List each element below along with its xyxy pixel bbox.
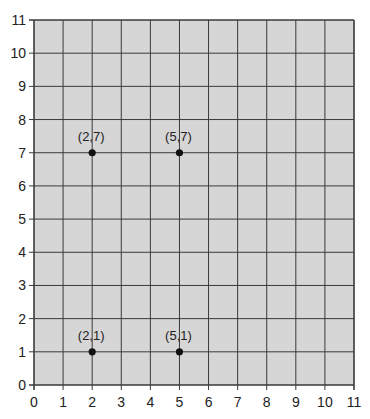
x-tick-label: 9	[292, 394, 300, 410]
x-tick-label: 3	[117, 394, 125, 410]
y-tick-label: 11	[11, 12, 26, 28]
data-point	[89, 348, 96, 355]
x-tick-label: 2	[88, 394, 96, 410]
x-axis-ticks: 01234567891011	[30, 394, 361, 410]
x-tick-label: 8	[263, 394, 271, 410]
point-label: (2,7)	[78, 129, 105, 144]
x-tick-label: 6	[205, 394, 213, 410]
point-label: (5,1)	[165, 328, 192, 343]
data-point	[89, 149, 96, 156]
x-tick-label: 5	[176, 394, 184, 410]
x-tick-label: 10	[317, 394, 333, 410]
x-tick-label: 1	[59, 394, 67, 410]
y-tick-label: 2	[18, 311, 26, 327]
x-tick-label: 7	[234, 394, 242, 410]
coordinate-grid-chart: 01234567891011 01234567891011 (2,7)(5,7)…	[0, 0, 370, 419]
y-axis-ticks: 01234567891011	[10, 12, 26, 393]
y-tick-label: 5	[18, 211, 26, 227]
point-label: (2,1)	[78, 328, 105, 343]
data-point	[176, 149, 183, 156]
x-tick-label: 0	[30, 394, 38, 410]
data-point	[176, 348, 183, 355]
chart-canvas: 01234567891011 01234567891011 (2,7)(5,7)…	[0, 0, 370, 419]
y-tick-label: 1	[18, 344, 26, 360]
y-tick-label: 4	[18, 244, 26, 260]
x-tick-label: 4	[146, 394, 154, 410]
y-tick-label: 0	[18, 377, 26, 393]
y-tick-label: 6	[18, 178, 26, 194]
y-tick-label: 8	[18, 112, 26, 128]
point-label: (5,7)	[165, 129, 192, 144]
x-tick-label: 11	[347, 394, 362, 410]
y-tick-label: 3	[18, 277, 26, 293]
y-tick-label: 9	[18, 78, 26, 94]
y-tick-label: 7	[18, 145, 26, 161]
y-tick-label: 10	[10, 45, 26, 61]
